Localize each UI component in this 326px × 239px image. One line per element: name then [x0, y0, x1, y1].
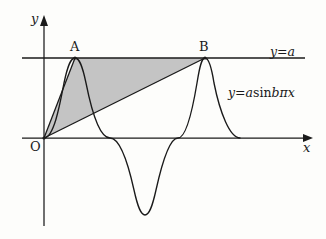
point-b-label: B	[199, 40, 209, 53]
vertex-dot-b	[203, 56, 206, 59]
x-axis-label: x	[303, 141, 310, 154]
curve-eq-lhs: y	[228, 85, 235, 100]
line-eq-rhs: a	[288, 44, 295, 59]
curve-eq-operator: =	[235, 85, 245, 100]
curve-eq-amplitude: a	[246, 85, 253, 100]
curve-equation-label: y=asinbπx	[228, 87, 295, 100]
vertex-dot-a	[73, 56, 76, 59]
point-a-label: A	[70, 40, 79, 53]
sine-triangle-figure: y x O A B y=a y=asinbπx	[0, 0, 326, 239]
curve-eq-variable: x	[288, 85, 295, 100]
vertex-dot-o	[42, 136, 45, 139]
line-equation-label: y=a	[270, 46, 295, 59]
y-axis-arrowhead-icon	[40, 15, 48, 26]
curve-eq-function: sin	[253, 85, 271, 100]
curve-eq-pi-symbol: π	[279, 85, 287, 100]
line-eq-lhs: y	[270, 44, 277, 59]
y-axis-label: y	[31, 12, 38, 25]
origin-label: O	[30, 140, 41, 153]
line-eq-operator: =	[277, 44, 287, 59]
plot-canvas	[0, 0, 326, 239]
